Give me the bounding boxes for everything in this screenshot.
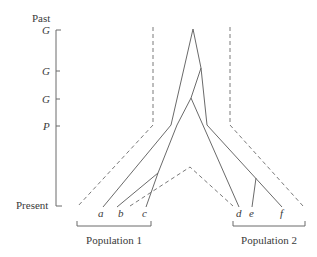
- time-axis: Past G G G P Present: [16, 12, 62, 211]
- branch-root-to-node1: [193, 29, 201, 68]
- population-1-bracket: Population 1: [77, 221, 151, 246]
- axis-past-label: Past: [32, 12, 50, 24]
- bracket-population-2: [233, 221, 305, 226]
- population-2-bracket: Population 2: [233, 221, 305, 246]
- axis-tick-label-3: G: [42, 93, 50, 105]
- axis-tick-label-2: G: [42, 65, 50, 77]
- branch-node1-to-node2: [191, 68, 201, 98]
- leaf-label-c: c: [142, 207, 147, 219]
- axis-present-label: Present: [16, 199, 48, 211]
- leaf-label-b: b: [118, 207, 124, 219]
- gene-tree: [103, 29, 282, 207]
- leaf-label-d: d: [236, 207, 242, 219]
- population-1-label: Population 1: [86, 234, 142, 246]
- leaf-label-f: f: [280, 207, 285, 219]
- leaf-label-e: e: [249, 207, 254, 219]
- population-2-label: Population 2: [241, 234, 297, 246]
- branch-root-to-a: [103, 29, 193, 207]
- leaf-label-a: a: [98, 207, 104, 219]
- inner-boundary-dashed: [130, 167, 233, 206]
- axis-tick-label-4: P: [42, 120, 50, 132]
- population-boundaries: [78, 27, 303, 206]
- right-boundary-dashed: [230, 27, 303, 206]
- left-boundary-dashed: [78, 27, 153, 206]
- branch-e: [252, 178, 256, 207]
- axis-tick-label-1: G: [42, 24, 50, 36]
- bracket-population-1: [77, 221, 151, 226]
- leaf-labels: a b c d e f: [98, 207, 285, 219]
- coalescent-gene-tree-diagram: Past G G G P Present a b c d e: [0, 0, 317, 257]
